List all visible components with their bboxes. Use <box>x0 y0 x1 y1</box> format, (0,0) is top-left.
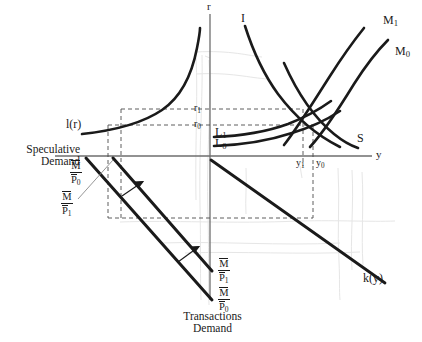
money-0-subscript: 0 <box>406 49 410 59</box>
money-0-base: M <box>395 44 406 58</box>
r0-subscript: 0 <box>197 123 201 131</box>
annotation-speculative-demand: Speculative Demand <box>2 143 80 167</box>
curve-label-investment: I <box>241 12 245 25</box>
curve-money-0 <box>310 40 388 147</box>
speculative-demand-line2: Demand <box>2 155 80 167</box>
tick-label-r0: r0 <box>194 119 201 132</box>
lm-0-subscript: 0 <box>222 141 226 151</box>
fraction-denominator-left-lower: P1 <box>61 204 73 218</box>
curve-label-l-of-r: l(r) <box>66 118 81 131</box>
fraction-m-over-p1-bottom: M P1 <box>218 258 230 284</box>
tick-label-r1: r1 <box>194 103 201 116</box>
curve-label-saving: S <box>357 132 364 145</box>
speculative-demand-line1: Speculative <box>2 143 80 155</box>
annotation-transactions-demand: Transactions Demand <box>165 310 260 334</box>
curve-label-money-1: M1 <box>383 14 398 28</box>
curve-l-of-r <box>82 28 200 134</box>
fraction-denominator-bottom-upper: P1 <box>218 271 230 285</box>
money-1-subscript: 1 <box>394 18 398 28</box>
tick-label-y0: y0 <box>316 158 325 171</box>
axis-lines <box>55 14 372 300</box>
fraction-denominator-left-upper: P0 <box>70 173 82 187</box>
fraction-denominator-bottom-lower: P0 <box>218 300 230 314</box>
diagram-page: r y l(r) I S k(y) M1 M0 L1 L0 r1 r0 y1 y… <box>0 0 422 342</box>
curve-label-k-of-y: k(y) <box>363 272 383 285</box>
fraction-numerator-bottom-upper: M <box>218 258 230 271</box>
leader-line-mp1 <box>78 160 113 199</box>
money-1-base: M <box>383 13 394 27</box>
scan-artifacts <box>120 52 395 305</box>
y1-subscript: 1 <box>301 162 305 170</box>
transactions-demand-line1: Transactions <box>165 310 260 322</box>
y0-subscript: 0 <box>321 162 325 170</box>
curve-label-lm-0: L0 <box>215 137 227 151</box>
fraction-m-over-p0-bottom: M P0 <box>218 287 230 313</box>
money-market-diagram <box>0 0 422 342</box>
line-real-balances-p1 <box>113 158 212 271</box>
vertical-axis-label: r <box>207 1 211 13</box>
transactions-demand-line2: Demand <box>165 322 260 334</box>
fraction-numerator-left-upper: M <box>70 160 82 173</box>
horizontal-axis-label: y <box>376 149 382 161</box>
line-real-balances-p0 <box>86 158 212 300</box>
tick-label-y1: y1 <box>296 158 305 171</box>
r1-subscript: 1 <box>197 107 201 115</box>
curve-label-money-0: M0 <box>395 45 410 59</box>
fraction-m-over-p1-left: M P1 <box>61 191 73 217</box>
fraction-numerator-left-lower: M <box>61 191 73 204</box>
fraction-numerator-bottom-lower: M <box>218 287 230 300</box>
fraction-m-over-p0-left: M P0 <box>70 160 82 186</box>
